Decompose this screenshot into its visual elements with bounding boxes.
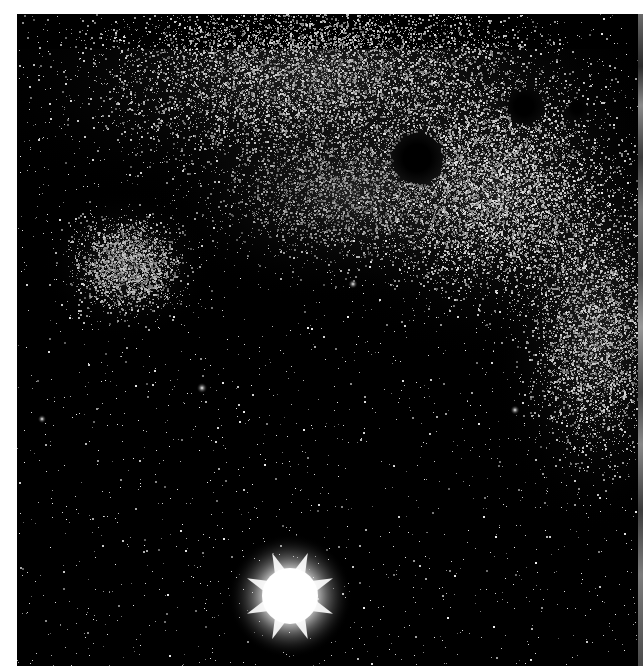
astronomical-photo: Star field with dark nebulae in the uppe…: [17, 14, 639, 666]
scanned-page-edge: [638, 14, 643, 666]
star-field-canvas: [17, 14, 639, 666]
